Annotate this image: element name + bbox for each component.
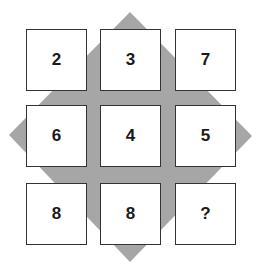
cell-r2-c3: 5 xyxy=(175,105,236,167)
cell-r1-c2: 3 xyxy=(100,29,161,91)
cell-r2-c1: 6 xyxy=(26,105,87,167)
cell-r3-c1: 8 xyxy=(26,183,87,245)
cell-value: 2 xyxy=(52,50,61,70)
cell-r1-c3: 7 xyxy=(175,29,236,91)
number-puzzle: 2 3 7 6 4 5 8 8 ? xyxy=(0,0,257,271)
cell-value: 4 xyxy=(126,126,135,146)
cell-value: 8 xyxy=(52,204,61,224)
cell-value: 5 xyxy=(201,126,210,146)
cell-value: 3 xyxy=(126,50,135,70)
cell-r1-c1: 2 xyxy=(26,29,87,91)
cell-value: 8 xyxy=(126,204,135,224)
cell-r3-c3-unknown: ? xyxy=(175,183,236,245)
cell-value: 7 xyxy=(201,50,210,70)
cell-r2-c2: 4 xyxy=(100,105,161,167)
cell-value-question-mark: ? xyxy=(200,204,210,224)
cell-value: 6 xyxy=(52,126,61,146)
cell-r3-c2: 8 xyxy=(100,183,161,245)
